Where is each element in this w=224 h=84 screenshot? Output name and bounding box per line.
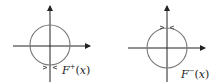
label-f-plus: F+(x) — [61, 63, 90, 77]
diagram-canvas: F+(x) F−(x) — [0, 0, 224, 84]
arrow-left-icon — [43, 66, 47, 69]
label-f-minus: F−(x) — [180, 67, 209, 81]
arrow-right-icon — [53, 66, 57, 69]
diagram-f-plus: F+(x) — [13, 6, 90, 82]
diagram-f-minus: F−(x) — [128, 6, 209, 82]
